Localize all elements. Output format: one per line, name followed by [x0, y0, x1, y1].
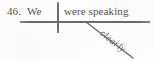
- exercise-number: 46.: [7, 6, 21, 17]
- adverb-modifier-word: clearly: [98, 28, 128, 54]
- subject-word: We: [27, 6, 41, 17]
- sentence-diagram: 46. We were speaking clearly: [0, 0, 154, 61]
- subject-predicate-divider: [57, 2, 59, 33]
- predicate-phrase: were speaking: [64, 6, 129, 17]
- horizontal-baseline: [20, 21, 150, 23]
